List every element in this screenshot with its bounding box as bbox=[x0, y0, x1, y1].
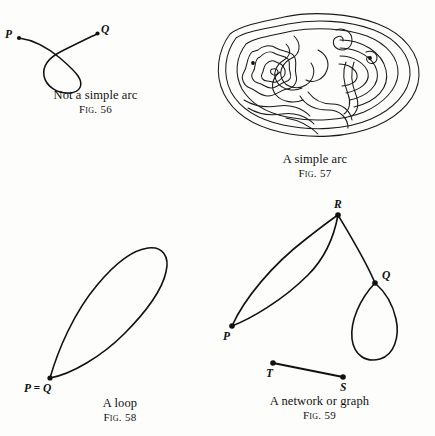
fig57-channel-2 bbox=[300, 96, 348, 128]
fig57-arc-r1 bbox=[340, 40, 387, 107]
fig59-vertex-p bbox=[229, 323, 235, 329]
figure-56: P Q bbox=[0, 0, 190, 140]
figure-plate: P Q Not a simple arc Fig. 56 bbox=[0, 0, 435, 436]
fig59-edge-q-loop bbox=[352, 283, 397, 360]
figure-57-caption: A simple arc Fig. 57 bbox=[235, 152, 395, 180]
fig58-point-pq bbox=[47, 375, 52, 380]
figure-59-caption-number: Fig. 59 bbox=[232, 409, 407, 422]
fig56-curve bbox=[19, 34, 97, 93]
fig59-edge-rq bbox=[338, 215, 375, 283]
figure-59-caption: A network or graph Fig. 59 bbox=[232, 394, 407, 422]
fig56-label-q: Q bbox=[101, 23, 109, 35]
figure-56-caption-number: Fig. 56 bbox=[8, 103, 183, 116]
fig57-point-q bbox=[368, 56, 372, 60]
fig56-point-q bbox=[95, 31, 99, 35]
fig57-meander-3 bbox=[273, 72, 303, 102]
fig57-star-outer bbox=[242, 46, 296, 96]
fig59-vertex-s bbox=[340, 374, 346, 380]
fig59-label-t: T bbox=[266, 367, 273, 379]
fig57-channel-1 bbox=[308, 92, 352, 120]
fig57-arc-r4 bbox=[339, 64, 357, 86]
figure-58-caption: A loop Fig. 58 bbox=[50, 396, 190, 424]
fig57-star-inner bbox=[261, 61, 285, 83]
fig59-vertex-q bbox=[372, 280, 378, 286]
fig59-vertex-r bbox=[335, 212, 341, 218]
fig59-label-r: R bbox=[334, 198, 342, 210]
figure-56-caption: Not a simple arc Fig. 56 bbox=[8, 88, 183, 116]
figure-57 bbox=[190, 0, 435, 155]
figure-56-caption-title: Not a simple arc bbox=[8, 88, 183, 103]
fig57-column-1 bbox=[344, 62, 350, 114]
fig56-point-p bbox=[17, 36, 21, 40]
fig58-loop-curve bbox=[50, 248, 167, 378]
fig59-label-p: P bbox=[223, 330, 230, 342]
figure-58-caption-number: Fig. 58 bbox=[50, 411, 190, 424]
fig59-label-s: S bbox=[340, 381, 346, 393]
fig57-arc-r2 bbox=[340, 48, 377, 100]
fig59-vertex-t bbox=[270, 360, 276, 366]
figure-58-caption-title: A loop bbox=[50, 396, 190, 411]
figure-58: P = Q bbox=[10, 200, 210, 400]
fig59-edge-ts bbox=[273, 363, 343, 377]
figure-57-caption-number: Fig. 57 bbox=[235, 167, 395, 180]
figure-57-caption-title: A simple arc bbox=[235, 152, 395, 167]
fig56-label-p: P bbox=[5, 28, 12, 40]
fig57-star-core bbox=[271, 69, 279, 75]
figure-59: R Q P T S bbox=[210, 195, 435, 395]
fig57-point-p bbox=[251, 61, 255, 65]
fig58-label-pq: P = Q bbox=[24, 382, 51, 394]
fig59-edge-pr-lower bbox=[232, 215, 338, 326]
fig57-meander-4 bbox=[306, 50, 328, 81]
fig57-shell-2 bbox=[226, 21, 410, 129]
figure-59-caption-title: A network or graph bbox=[232, 394, 407, 409]
fig59-edge-pr-upper bbox=[232, 215, 338, 326]
fig59-label-q: Q bbox=[382, 269, 390, 281]
